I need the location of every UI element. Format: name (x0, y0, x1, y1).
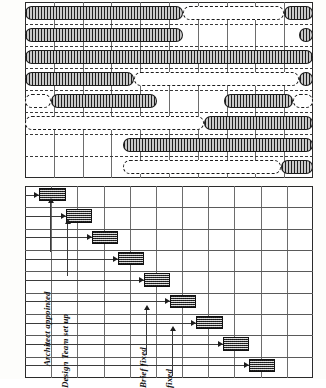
gantt-bar (25, 72, 134, 87)
gantt-bar-chart (25, 2, 313, 178)
gantt-float-bar (183, 6, 284, 21)
leader-line-horizontal (25, 344, 223, 345)
label-fixed: fixed (164, 369, 174, 388)
grid-vline (104, 186, 105, 378)
gantt-float-bar (123, 160, 281, 175)
grid-hline-dashed (25, 68, 313, 69)
dimension-line-vertical (50, 202, 51, 252)
milestone-box (196, 316, 222, 329)
leader-arrowhead (191, 320, 196, 326)
grid-hline (25, 207, 313, 208)
grid-hline-dashed (25, 90, 313, 91)
grid-vline (182, 186, 183, 378)
leader-line-horizontal (25, 237, 92, 238)
gantt-float-bar (134, 72, 298, 87)
milestone-box (170, 295, 196, 308)
grid-vline (130, 186, 131, 378)
milestone-box (249, 359, 275, 372)
leader-line-horizontal (25, 259, 118, 260)
grid-vline (261, 186, 262, 378)
leader-arrowhead (244, 362, 249, 368)
gantt-bar (25, 50, 313, 65)
gantt-bar (123, 138, 313, 153)
leader-line-horizontal (25, 365, 249, 366)
leader-arrowhead (113, 256, 118, 262)
label-design-team-set-up: Design Team set up (60, 314, 70, 388)
dimension-arrowhead (65, 219, 71, 224)
leader-line-horizontal (25, 280, 144, 281)
leader-arrowhead (61, 213, 66, 219)
gantt-bar (299, 28, 313, 43)
dimension-line-vertical (67, 223, 68, 275)
gantt-float-bar (25, 116, 204, 131)
milestone-box (223, 337, 249, 350)
grid-hline-dashed (25, 134, 313, 135)
gantt-bar (25, 6, 183, 21)
grid-hline-dashed (25, 112, 313, 113)
grid-hline (25, 293, 313, 294)
dimension-arrowhead (48, 198, 54, 203)
gantt-bar (224, 94, 293, 109)
leader-arrowhead (165, 298, 170, 304)
milestone-box (118, 252, 144, 265)
label-brief-fixed: Brief fixed (138, 347, 148, 388)
grid-vline (208, 186, 209, 378)
gantt-bar (281, 160, 313, 175)
gantt-float-bar (25, 94, 51, 109)
leader-line-horizontal (25, 216, 66, 217)
gantt-bar (204, 116, 313, 131)
grid-hline-dashed (25, 24, 313, 25)
gantt-bar (284, 6, 313, 21)
grid-hline-dashed (25, 156, 313, 157)
milestone-box (92, 231, 118, 244)
milestone-staircase-chart: Architect appointedDesign Team set upBri… (25, 186, 313, 378)
leader-arrowhead (34, 192, 39, 198)
leader-arrowhead (218, 341, 223, 347)
dimension-arrowhead (170, 326, 176, 331)
gantt-bar (25, 28, 183, 43)
leader-arrowhead (139, 277, 144, 283)
label-architect-appointed: Architect appointed (42, 291, 52, 366)
leader-arrowhead (87, 234, 92, 240)
gantt-bar (299, 72, 313, 87)
grid-vline (287, 186, 288, 378)
gantt-float-bar (293, 94, 313, 109)
dimension-arrowhead (144, 305, 150, 310)
grid-hline-dashed (25, 46, 313, 47)
milestone-box (144, 273, 170, 286)
gantt-bar (51, 94, 158, 109)
